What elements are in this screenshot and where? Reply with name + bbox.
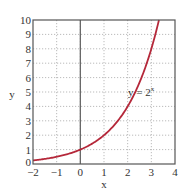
x-tick-label: 0 — [78, 166, 84, 178]
x-tick-label: 1 — [101, 166, 107, 178]
chart-svg: −2−101234 012345678910 x y y = 2x — [0, 0, 187, 191]
annotation-text: y = 2 — [128, 86, 151, 98]
x-tick-label: 4 — [172, 166, 178, 178]
y-tick-label: 1 — [26, 144, 32, 156]
x-tick-label: 2 — [125, 166, 131, 178]
annotation-superscript: x — [151, 85, 155, 93]
y-tick-label: 3 — [26, 115, 32, 127]
x-axis-label: x — [101, 178, 107, 190]
y-tick-label: 7 — [26, 57, 32, 69]
y-tick-label: 5 — [26, 86, 32, 98]
y-tick-label: 6 — [26, 72, 32, 84]
y-axis-label: y — [9, 88, 15, 100]
y-tick-label: 9 — [26, 28, 32, 40]
y-tick-label: 4 — [26, 100, 32, 112]
y-tick-label: 0 — [26, 156, 32, 168]
x-tick-label: −1 — [51, 166, 63, 178]
y-tick-labels: 012345678910 — [20, 14, 32, 168]
y-tick-label: 8 — [26, 43, 32, 55]
y-tick-label: 2 — [26, 129, 32, 141]
x-tick-label: 3 — [149, 166, 155, 178]
x-tick-labels: −2−101234 — [27, 166, 178, 178]
curve-annotation: y = 2x — [128, 85, 155, 98]
y-tick-label: 10 — [20, 14, 32, 26]
